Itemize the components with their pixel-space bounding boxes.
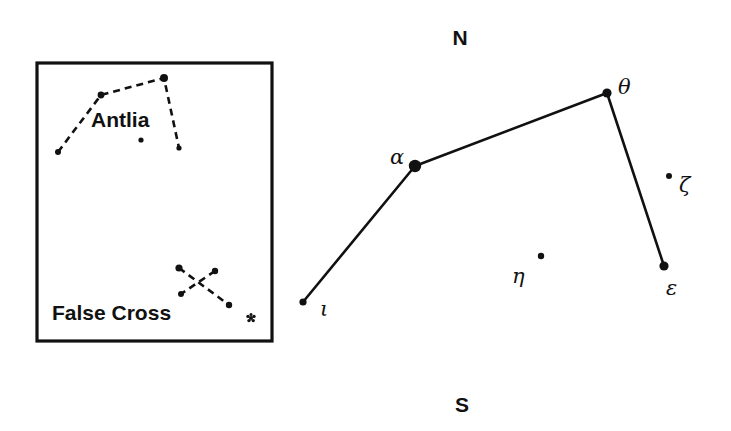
chart-background bbox=[0, 0, 731, 431]
open-cluster-blob-1 bbox=[246, 315, 249, 318]
inset-star-dot-antlia-se bbox=[176, 145, 181, 150]
star-dot-epsilon bbox=[659, 261, 668, 270]
star-label-alpha: α bbox=[390, 145, 404, 169]
star-label-iota: ι bbox=[320, 297, 328, 321]
inset-star-dot-fc-tr bbox=[212, 268, 218, 274]
inset-star-dot-fc-bl bbox=[178, 291, 184, 297]
compass-south-label: S bbox=[455, 393, 469, 416]
star-label-epsilon: ε bbox=[666, 276, 677, 300]
star-label-eta: η bbox=[512, 264, 525, 288]
star-label-theta: θ bbox=[618, 75, 631, 99]
open-cluster-blob-4 bbox=[252, 319, 255, 322]
inset-star-dot-antlia-sw bbox=[55, 149, 61, 155]
star-chart-canvas: N S ιαθεζη Antlia False Cross bbox=[0, 0, 731, 431]
star-dot-theta bbox=[602, 88, 611, 97]
star-chart-figure: N S ιαθεζη Antlia False Cross bbox=[0, 0, 731, 431]
inset-star-dot-antlia-nw bbox=[98, 92, 105, 99]
compass-north-label: N bbox=[452, 26, 467, 49]
open-cluster-blob-5 bbox=[250, 313, 253, 316]
inset-star-dot-fc-br bbox=[226, 302, 232, 308]
inset-star-dot-antlia-ne bbox=[160, 74, 168, 82]
open-cluster-blob-3 bbox=[247, 319, 250, 322]
false-cross-label: False Cross bbox=[52, 301, 171, 324]
antlia-label: Antlia bbox=[91, 108, 150, 131]
star-dot-iota bbox=[299, 298, 306, 305]
star-dot-eta bbox=[538, 253, 544, 259]
inset-star-dot-antlia-mid bbox=[138, 137, 143, 142]
star-dot-zeta bbox=[666, 173, 672, 179]
star-label-zeta: ζ bbox=[679, 173, 692, 197]
open-cluster-blob-2 bbox=[252, 315, 255, 318]
inset-star-dot-fc-tl bbox=[175, 264, 182, 271]
star-dot-alpha bbox=[409, 160, 421, 172]
